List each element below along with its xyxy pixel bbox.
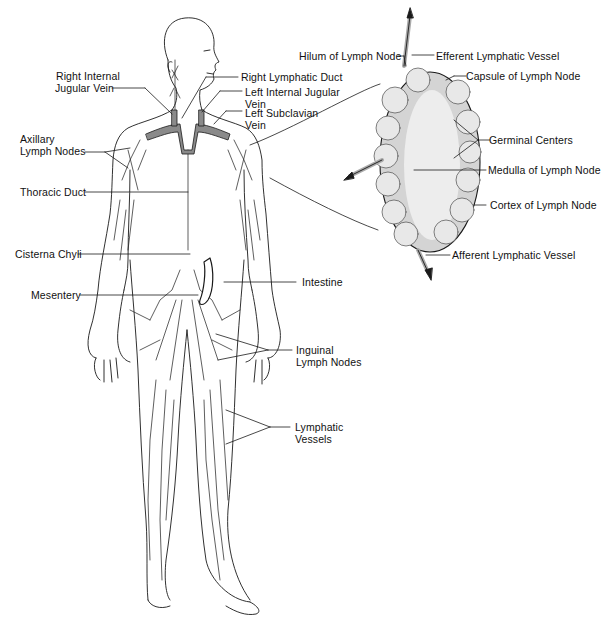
label-inguinal-lymph-nodes: Inguinal Lymph Nodes: [296, 344, 362, 368]
torso-outline: [88, 110, 280, 615]
label-germinal-centers: Germinal Centers: [489, 134, 573, 146]
label-hilum-of-lymph-node: Hilum of Lymph Node: [299, 50, 401, 62]
label-axillary-lymph-nodes: Axillary Lymph Nodes: [20, 133, 86, 157]
label-right-lymphatic-duct: Right Lymphatic Duct: [241, 71, 342, 83]
lymphatic-system-diagram: Right Internal Jugular Vein Right Lympha…: [0, 0, 606, 625]
label-right-internal-jugular-vein: Right Internal Jugular Vein: [56, 70, 120, 94]
label-left-subclavian-vein: Left Subclavian Vein: [245, 107, 318, 131]
label-medulla-of-lymph-node: Medulla of Lymph Node: [488, 164, 601, 176]
body-lymph-vessels: [114, 60, 260, 580]
label-cortex-of-lymph-node: Cortex of Lymph Node: [490, 199, 597, 211]
intestine-shape: [200, 258, 213, 305]
label-capsule-of-lymph-node: Capsule of Lymph Node: [466, 70, 580, 82]
label-efferent-lymphatic-vessel: Efferent Lymphatic Vessel: [436, 50, 559, 62]
label-thoracic-duct: Thoracic Duct: [20, 186, 86, 198]
label-afferent-lymphatic-vessel: Afferent Lymphatic Vessel: [452, 249, 575, 261]
label-intestine: Intestine: [302, 276, 343, 288]
head-outline: [164, 18, 219, 110]
label-mesentery: Mesentery: [31, 289, 81, 301]
label-lymphatic-vessels: Lymphatic Vessels: [295, 421, 343, 445]
label-cisterna-chyli: Cisterna Chyli: [15, 248, 82, 260]
lymph-node-section: [344, 8, 490, 280]
